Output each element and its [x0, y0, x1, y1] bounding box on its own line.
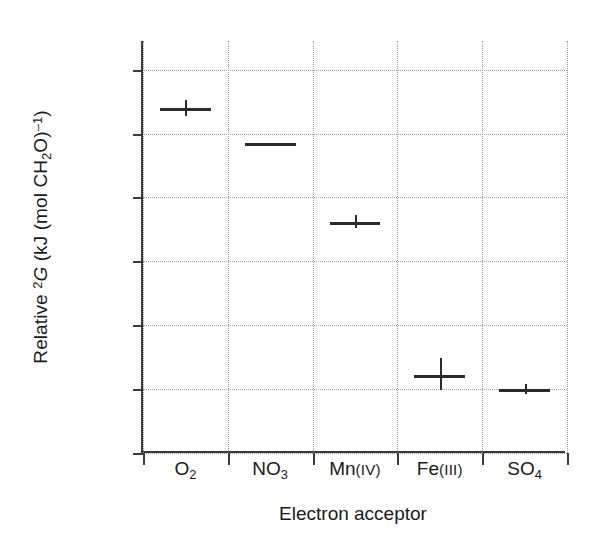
data-marker — [245, 143, 296, 146]
y-axis-label-symbol: G — [30, 267, 51, 282]
data-marker — [330, 222, 381, 225]
x-axis-tick-label-base: SO — [507, 458, 534, 479]
y-axis-tick — [133, 261, 143, 263]
y-axis-unit-close: ) — [30, 110, 51, 116]
gridline-horizontal — [143, 261, 567, 262]
y-axis-tick — [133, 134, 143, 136]
x-axis-tick-label-subscript: 3 — [281, 467, 288, 482]
y-axis-tick — [133, 453, 143, 455]
y-axis-label-prefix: Relative — [30, 289, 51, 364]
y-axis-tick — [133, 389, 143, 391]
x-axis-tick-label-valence: (III) — [439, 461, 463, 478]
gridline-vertical — [567, 41, 568, 453]
gridline-horizontal — [143, 197, 567, 198]
gridline-horizontal — [143, 134, 567, 135]
x-axis-tick-label-subscript: 4 — [535, 467, 542, 482]
y-axis-tick — [133, 197, 143, 199]
gridline-vertical — [482, 41, 483, 453]
gridline-vertical — [313, 41, 314, 453]
gridline-horizontal — [143, 70, 567, 71]
x-axis-tick-label-base: Mn — [329, 458, 355, 479]
x-axis-tick-label-valence: (IV) — [356, 461, 381, 478]
plot-area: –600–500–400–300–200–1000O2NO3Mn(IV)Fe(I… — [141, 41, 565, 453]
chart-figure: Relative 2G (kJ (mol CH2O)–1) –600–500–4… — [0, 0, 595, 544]
x-axis-label: Electron acceptor — [141, 503, 565, 525]
gridline-horizontal — [143, 453, 567, 454]
y-axis-unit-open: (kJ (mol CH — [30, 160, 51, 267]
x-axis-tick-label-base: NO — [252, 458, 281, 479]
data-marker — [414, 375, 465, 378]
x-axis-tick-label-base: Fe — [417, 458, 439, 479]
x-axis-tick-label: SO4 — [470, 459, 580, 481]
y-axis-label-delta: 2 — [30, 282, 45, 289]
gridline-horizontal — [143, 325, 567, 326]
data-marker — [499, 389, 550, 392]
y-axis-tick — [133, 325, 143, 327]
gridline-vertical — [143, 41, 144, 453]
gridline-vertical — [397, 41, 398, 453]
y-axis-unit-sub: 2 — [39, 153, 54, 160]
x-axis-tick-label-subscript: 2 — [189, 467, 196, 482]
gridline-vertical — [228, 41, 229, 453]
y-axis-tick — [133, 70, 143, 72]
y-axis-unit-mid: O) — [30, 131, 51, 152]
y-axis-label: Relative 2G (kJ (mol CH2O)–1) — [30, 27, 54, 447]
data-marker — [160, 108, 211, 111]
x-axis-tick-label-base: O — [174, 458, 189, 479]
y-axis-unit-sup: –1 — [30, 117, 45, 132]
